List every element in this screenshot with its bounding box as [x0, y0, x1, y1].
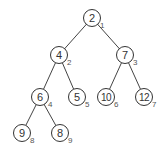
tree-node: 7	[116, 46, 134, 64]
tree-node: 4	[50, 46, 68, 64]
tree-node: 12	[135, 88, 153, 106]
tree-node: 6	[31, 88, 49, 106]
tree-node: 8	[51, 124, 69, 142]
tree-node: 9	[13, 124, 31, 142]
node-index-label: 8	[30, 136, 34, 145]
node-index-label: 3	[133, 58, 137, 67]
node-index-label: 7	[152, 100, 156, 109]
node-index-label: 1	[100, 21, 104, 30]
node-index-label: 6	[114, 100, 118, 109]
tree-node: 2	[83, 9, 101, 27]
heap-tree-diagram: 21427364551061279889	[0, 0, 168, 153]
tree-node: 10	[97, 88, 115, 106]
node-index-label: 4	[48, 100, 52, 109]
tree-node: 5	[68, 88, 86, 106]
node-index-label: 2	[67, 58, 71, 67]
node-index-label: 9	[68, 136, 72, 145]
node-index-label: 5	[85, 100, 89, 109]
